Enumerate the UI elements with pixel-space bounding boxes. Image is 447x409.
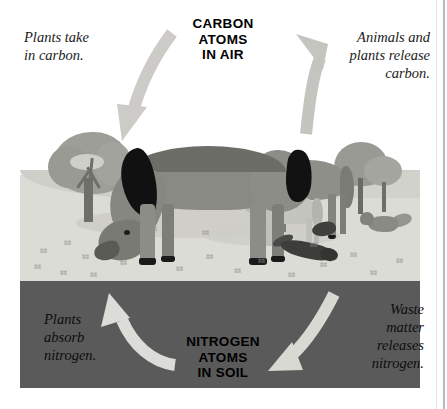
grass-tuft: ʬʬ — [310, 242, 317, 249]
grass-tuft: ʬʬ — [350, 252, 357, 259]
grass-tuft: ʬʬ — [320, 262, 327, 269]
label-waste-matter-releases-nitrogen: Waste matter releases nitrogen. — [312, 300, 424, 372]
grass-tuft: ʬʬ — [202, 230, 209, 237]
otter — [272, 234, 348, 266]
grass-tuft: ʬʬ — [150, 226, 157, 233]
nitrogen-hub-label: NITROGEN ATOMS IN SOIL — [163, 334, 283, 381]
horse-hoof — [161, 256, 175, 262]
label-animals-plants-release-carbon: Animals and plants release carbon. — [290, 28, 430, 82]
horse-tail — [283, 149, 314, 203]
grass-tuft: ʬʬ — [146, 250, 153, 257]
fox — [358, 208, 412, 238]
grass-tuft: ʬʬ — [258, 258, 265, 265]
fox-head — [360, 212, 374, 225]
grass-tuft: ʬʬ — [120, 260, 127, 267]
horse-leg — [250, 204, 266, 262]
label-plants-absorb-nitrogen: Plants absorb nitrogen. — [44, 310, 96, 364]
grass-tuft: ʬʬ — [64, 240, 71, 247]
grass-tuft: ʬʬ — [206, 254, 213, 261]
grass-tuft: ʬʬ — [60, 270, 67, 277]
grass-tuft: ʬʬ — [176, 266, 183, 273]
horse-back-shading — [130, 146, 286, 172]
grass-tuft: ʬʬ — [90, 272, 97, 279]
label-plants-take-in-carbon: Plants take in carbon. — [24, 28, 89, 64]
horse-hoof — [139, 258, 156, 265]
horse-leg — [162, 204, 174, 260]
carbon-hub-label: CARBON ATOMS IN AIR — [163, 16, 283, 63]
grass-tuft: ʬʬ — [370, 270, 377, 277]
horse-leg — [340, 194, 346, 234]
grass-tuft: ʬʬ — [288, 272, 295, 279]
grass-tuft: ʬʬ — [40, 248, 47, 255]
tree-trunk — [84, 178, 93, 222]
page-margin-line — [436, 0, 437, 409]
grass-tuft: ʬʬ — [82, 254, 89, 261]
grass-tuft: ʬʬ — [34, 264, 41, 271]
horse-eye — [124, 230, 130, 235]
grass-tuft: ʬʬ — [396, 258, 403, 265]
grass-tuft: ʬʬ — [234, 268, 241, 275]
cycle-diagram-page: ʬʬ ʬʬ ʬʬ ʬʬ ʬʬ ʬʬ ʬʬ ʬʬ ʬʬ ʬʬ ʬʬ ʬʬ ʬʬ ʬ… — [0, 0, 447, 409]
page-edge-line — [443, 0, 445, 409]
